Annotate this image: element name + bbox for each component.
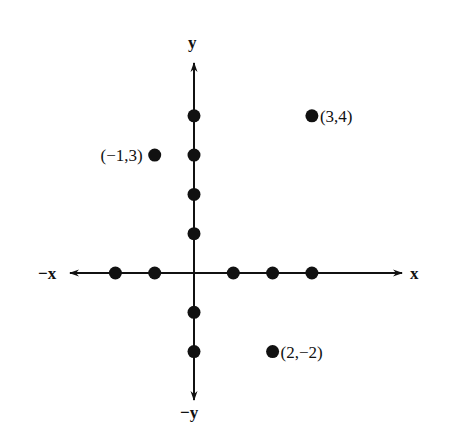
axis-point [188, 345, 201, 358]
neg-y-label: −y [180, 403, 199, 422]
axis-point [227, 267, 240, 280]
pos-y-label: y [188, 33, 197, 52]
pos-x-label: x [410, 264, 419, 283]
axis-point [266, 267, 279, 280]
labeled-point [148, 149, 161, 162]
axis-point [305, 267, 318, 280]
labeled-point [266, 345, 279, 358]
point-label: (2,−2) [281, 343, 323, 362]
axis-point [188, 149, 201, 162]
labeled-point [305, 109, 318, 122]
point-label: (−1,3) [101, 146, 143, 165]
axis-point [188, 306, 201, 319]
neg-x-label: −x [38, 264, 57, 283]
axis-point [188, 109, 201, 122]
axis-point [188, 188, 201, 201]
axis-point [188, 227, 201, 240]
coordinate-plane: (3,4)(−1,3)(2,−2) x −x y −y [0, 0, 452, 439]
axis-point [148, 267, 161, 280]
axis-point [109, 267, 122, 280]
point-label: (3,4) [320, 107, 353, 126]
